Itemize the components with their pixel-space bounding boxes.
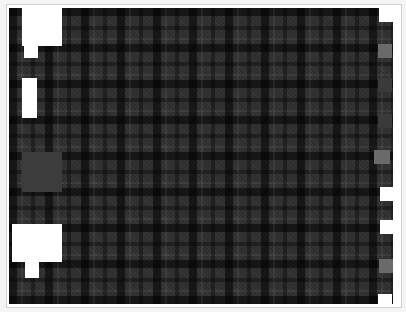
right-swatch-6 — [380, 187, 394, 201]
right-swatch-7 — [380, 220, 394, 234]
right-swatch-9 — [378, 294, 392, 306]
top-left-block-head — [22, 8, 62, 46]
right-swatch-4 — [378, 114, 392, 128]
bottom-left-block-head — [12, 224, 62, 262]
top-left-block-stem — [24, 46, 38, 58]
tartan-canvas — [9, 8, 393, 304]
grey-square — [22, 152, 62, 192]
right-swatch-3 — [378, 78, 392, 92]
bottom-left-block-stem — [25, 262, 39, 278]
right-swatch-5 — [374, 150, 390, 164]
right-swatch-1 — [379, 8, 393, 22]
right-swatch-2 — [378, 44, 392, 58]
middle-left-bar — [22, 78, 37, 118]
right-swatch-8 — [379, 259, 393, 273]
